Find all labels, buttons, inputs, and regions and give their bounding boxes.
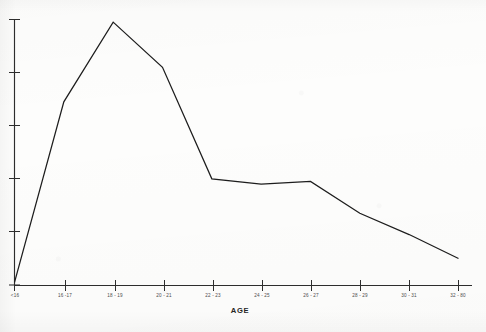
data-series-line bbox=[15, 22, 459, 282]
x-axis-title: AGE bbox=[231, 306, 250, 315]
line-chart-plot bbox=[0, 0, 486, 332]
x-tick-label-8: 30 - 31 bbox=[401, 293, 416, 298]
x-tick-label-2: 18 - 19 bbox=[107, 293, 122, 298]
x-tick-label-0: <16 bbox=[11, 293, 19, 298]
x-tick-label-1: 16 -17 bbox=[58, 293, 72, 298]
x-tick-label-3: 20 - 21 bbox=[156, 293, 171, 298]
chart-figure: <16 16 -17 18 - 19 20 - 21 22 - 23 24 - … bbox=[0, 0, 486, 332]
x-tick-label-7: 28 - 29 bbox=[352, 293, 367, 298]
x-tick-label-4: 22 - 23 bbox=[205, 293, 220, 298]
x-tick-label-6: 26 - 27 bbox=[303, 293, 318, 298]
x-tick-label-5: 24 - 25 bbox=[254, 293, 269, 298]
x-tick-label-9: 32 - 80 bbox=[450, 293, 465, 298]
